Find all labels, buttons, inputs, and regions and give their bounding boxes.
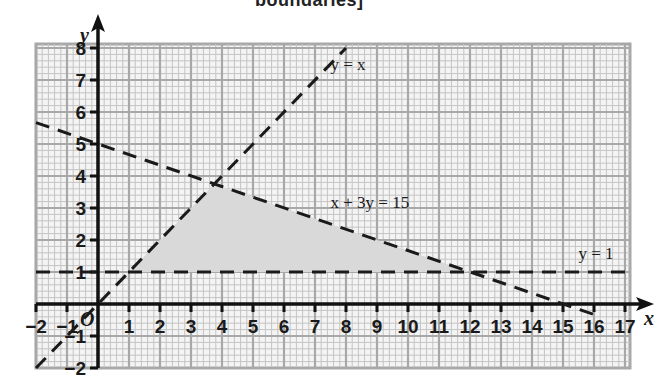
- x-tick-label: 14: [521, 316, 543, 337]
- line-annotation: y = x: [331, 55, 367, 74]
- x-tick-label: 7: [310, 316, 321, 337]
- x-tick-label: 2: [155, 316, 166, 337]
- x-tick-label: 6: [279, 316, 290, 337]
- y-axis-label: y: [78, 24, 89, 47]
- x-tick-label: −2: [25, 316, 47, 337]
- x-tick-label: 15: [552, 316, 574, 337]
- x-tick-label: 17: [614, 316, 635, 337]
- y-tick-label: 6: [75, 102, 86, 123]
- x-tick-label: 5: [248, 316, 259, 337]
- y-tick-label: 2: [75, 230, 86, 251]
- x-tick-label: 10: [397, 316, 418, 337]
- x-tick-label: 8: [341, 316, 352, 337]
- linear-programming-graph: −2−11234567891011121314151617−2−11234567…: [0, 0, 666, 385]
- x-tick-label: 1: [124, 316, 135, 337]
- x-tick-label: 9: [372, 316, 383, 337]
- x-tick-label: 3: [186, 316, 197, 337]
- line-annotation: y = 1: [579, 244, 614, 263]
- y-tick-label: 3: [75, 198, 86, 219]
- x-tick-label: 12: [459, 316, 480, 337]
- x-tick-label: 4: [217, 316, 228, 337]
- x-axis-label: x: [643, 307, 654, 329]
- line-annotation: x + 3y = 15: [331, 193, 410, 212]
- x-tick-label: 11: [429, 316, 450, 337]
- x-tick-label: 16: [583, 316, 604, 337]
- y-tick-label: −2: [64, 358, 86, 379]
- x-tick-label: 13: [490, 316, 511, 337]
- y-tick-label: 7: [75, 70, 86, 91]
- y-tick-label: 4: [75, 166, 86, 187]
